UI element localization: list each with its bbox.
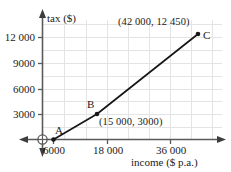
data-point-c	[196, 32, 201, 37]
point-c-coordinate-annotation: (42 000, 12 450)	[118, 17, 190, 28]
y-axis-arrow-up	[39, 9, 46, 18]
y-tick-label-3000: 3000	[0, 109, 35, 120]
x-axis	[19, 136, 226, 144]
y-tick-label-9000: 9000	[0, 58, 35, 69]
data-point-a	[51, 137, 56, 142]
x-axis-title: income ($ p.a.)	[131, 157, 198, 168]
point-label-b: B	[87, 99, 94, 110]
x-tick-label-36000: 36 000	[147, 145, 195, 156]
tax-vs-income-graph: tax ($) income ($ p.a.) 12 000 9000 6000…	[0, 0, 231, 172]
x-axis-arrow-right	[217, 136, 226, 143]
x-tick-label-6000: 6000	[34, 145, 74, 156]
point-label-a: A	[55, 125, 63, 136]
y-tick-label-12000: 12 000	[0, 32, 35, 43]
x-tick-label-18000: 18 000	[84, 145, 132, 156]
point-label-c: C	[203, 30, 210, 41]
y-tick-label-6000: 6000	[0, 84, 35, 95]
point-b-coordinate-annotation: (15 000, 3000)	[99, 117, 163, 128]
x-axis-arrow-left	[19, 136, 28, 143]
y-axis-title: tax ($)	[47, 13, 76, 24]
